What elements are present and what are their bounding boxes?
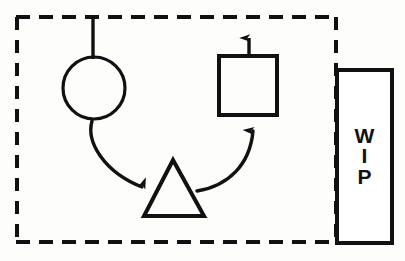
connector-circle-to-triangle <box>91 121 142 187</box>
wip-label-line-p: P <box>357 167 371 188</box>
wip-label-line-i: I <box>362 146 368 167</box>
node-triangle-buffer <box>144 160 204 216</box>
connector-triangle-to-square <box>197 131 253 191</box>
node-square-station <box>219 56 277 115</box>
diagram-canvas: W I P <box>0 0 405 261</box>
wip-label-line-w: W <box>355 126 375 147</box>
wip-store-label: W I P <box>337 70 392 243</box>
node-circle-station <box>63 57 125 119</box>
work-cell-boundary <box>16 17 337 243</box>
